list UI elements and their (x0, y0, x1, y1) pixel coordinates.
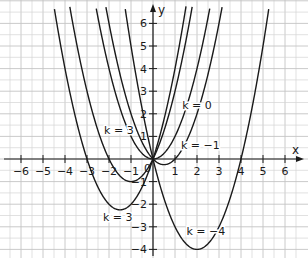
x-tick-label: 3 (216, 165, 223, 178)
x-tick-label: 5 (260, 165, 267, 178)
y-tick-label: 6 (140, 17, 147, 30)
y-tick-label: −3 (131, 221, 147, 234)
x-tick-label: −2 (101, 165, 117, 178)
x-tick-label: −5 (35, 165, 51, 178)
y-tick-label: −2 (131, 198, 147, 211)
x-tick-label: −3 (79, 165, 95, 178)
curve-label: k = −1 (181, 139, 220, 152)
x-axis-label: x (292, 143, 299, 157)
y-tick-label: 4 (140, 63, 147, 76)
curve-label: k = −4 (186, 225, 225, 238)
y-tick-label: 2 (140, 108, 147, 121)
y-tick-label: −4 (131, 243, 147, 256)
parabola-family-chart: x y 0 −6−5−4−3−2−1123456−4−3−2−1123456 k… (0, 0, 308, 258)
y-tick-label: 5 (140, 40, 147, 53)
x-tick-label: −4 (57, 165, 73, 178)
y-axis-arrow-icon (150, 4, 156, 12)
origin-label: 0 (144, 162, 151, 175)
x-tick-label: 1 (172, 165, 179, 178)
x-tick-label: 4 (238, 165, 245, 178)
x-tick-label: −6 (13, 165, 29, 178)
y-tick-label: 3 (140, 85, 147, 98)
axes: x y 0 (4, 3, 304, 256)
curve-label: k = 3 (103, 211, 133, 224)
x-tick-label: 2 (194, 165, 201, 178)
grid (0, 0, 308, 258)
x-tick-label: 6 (282, 165, 289, 178)
y-axis-label: y (158, 3, 165, 17)
curve-label: k = 3 (104, 124, 134, 137)
y-tick-label: 1 (140, 130, 147, 143)
y-tick-label: −1 (131, 176, 147, 189)
curve-label: k = 0 (182, 99, 212, 112)
